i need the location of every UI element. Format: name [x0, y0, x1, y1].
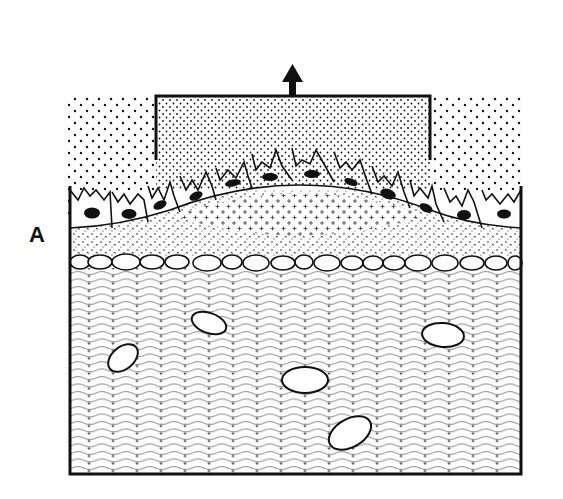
arrow-up-icon [282, 64, 303, 97]
tissue-diagram [0, 0, 563, 499]
